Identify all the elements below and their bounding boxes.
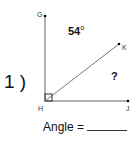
label-g: G <box>37 11 42 18</box>
ray-hk <box>45 44 119 101</box>
answer-blank[interactable] <box>87 119 127 131</box>
answer-label: Angle = <box>43 120 84 134</box>
label-j: J <box>126 105 130 112</box>
answer-line: Angle = <box>43 119 127 134</box>
unknown-angle: ? <box>111 70 118 82</box>
given-angle: 54o <box>68 24 84 37</box>
label-h: H <box>38 105 43 112</box>
point-k <box>118 43 121 46</box>
label-k: K <box>122 44 127 51</box>
point-g <box>44 15 47 18</box>
point-j <box>127 100 130 103</box>
